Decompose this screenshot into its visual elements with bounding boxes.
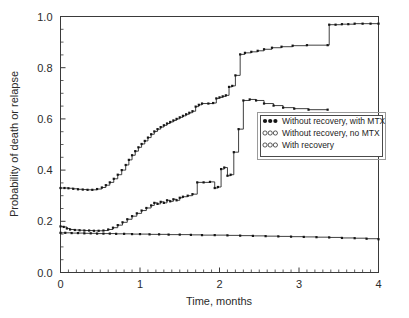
data-point bbox=[327, 44, 329, 46]
data-point bbox=[150, 204, 152, 206]
data-point bbox=[59, 225, 61, 227]
data-point bbox=[136, 212, 138, 214]
data-point bbox=[225, 94, 227, 96]
data-point bbox=[209, 181, 211, 183]
data-point bbox=[215, 97, 217, 99]
data-point bbox=[115, 233, 117, 235]
legend-marker bbox=[268, 131, 272, 135]
data-point bbox=[71, 232, 73, 234]
data-point bbox=[265, 235, 267, 237]
data-point bbox=[195, 106, 197, 108]
data-point bbox=[290, 236, 292, 238]
data-point bbox=[212, 102, 214, 104]
legend-marker bbox=[268, 119, 272, 123]
data-point bbox=[131, 154, 133, 156]
series-line-1 bbox=[61, 24, 379, 190]
data-point bbox=[293, 108, 295, 110]
data-point bbox=[196, 181, 198, 183]
data-point bbox=[82, 188, 84, 190]
data-point bbox=[166, 199, 168, 201]
x-tick-label: 2 bbox=[216, 278, 222, 290]
data-point bbox=[169, 121, 171, 123]
data-point bbox=[263, 48, 265, 50]
data-point bbox=[306, 44, 308, 46]
data-point bbox=[59, 232, 61, 234]
data-point bbox=[191, 193, 193, 195]
data-point bbox=[201, 102, 203, 104]
data-point bbox=[175, 199, 177, 201]
data-point bbox=[126, 218, 128, 220]
data-point bbox=[78, 229, 80, 231]
data-point bbox=[77, 188, 79, 190]
data-point bbox=[315, 236, 317, 238]
data-point bbox=[153, 202, 155, 204]
data-point bbox=[347, 23, 349, 25]
series-line-3 bbox=[61, 233, 379, 239]
y-tick-label: 0.8 bbox=[37, 62, 52, 74]
data-point bbox=[328, 24, 330, 26]
legend-marker bbox=[263, 143, 267, 147]
data-point bbox=[86, 189, 88, 191]
data-point bbox=[354, 23, 356, 25]
data-point bbox=[121, 169, 123, 171]
data-point bbox=[128, 159, 130, 161]
figure-container: 01234 0.00.20.40.60.81.0 Time, months Pr… bbox=[0, 0, 409, 318]
legend-marker bbox=[273, 143, 277, 147]
data-point bbox=[139, 233, 141, 235]
data-point bbox=[163, 202, 165, 204]
data-point bbox=[252, 235, 254, 237]
data-point bbox=[134, 150, 136, 152]
data-point bbox=[96, 232, 98, 234]
data-point bbox=[121, 221, 123, 223]
data-point bbox=[147, 136, 149, 138]
legend-marker bbox=[263, 131, 267, 135]
legend-label: Without recovery, with MTX bbox=[282, 116, 386, 126]
data-point bbox=[145, 207, 147, 209]
data-point bbox=[175, 118, 177, 120]
y-axis-title: Probability of death or relapse bbox=[8, 71, 20, 217]
data-point bbox=[233, 151, 235, 153]
survival-curve-chart: 01234 0.00.20.40.60.81.0 Time, months Pr… bbox=[0, 0, 409, 318]
data-point bbox=[93, 230, 95, 232]
legend-label: With recovery bbox=[282, 140, 335, 150]
legend-marker bbox=[273, 119, 277, 123]
data-point bbox=[365, 238, 367, 240]
data-point bbox=[218, 96, 220, 98]
legend-marker bbox=[263, 119, 267, 123]
y-tick-label: 0.6 bbox=[37, 113, 52, 125]
data-point bbox=[172, 198, 174, 200]
data-point bbox=[244, 52, 246, 54]
data-point bbox=[109, 181, 111, 183]
data-point bbox=[148, 233, 150, 235]
data-point bbox=[74, 229, 76, 231]
data-point bbox=[272, 104, 274, 106]
legend-label: Without recovery, no MTX bbox=[282, 128, 380, 138]
data-point bbox=[105, 184, 107, 186]
x-axis-ticks bbox=[61, 268, 379, 273]
data-point bbox=[131, 233, 133, 235]
series-1 bbox=[59, 23, 379, 191]
data-point bbox=[83, 229, 85, 231]
data-point bbox=[257, 50, 259, 52]
data-point bbox=[271, 47, 273, 49]
data-point bbox=[123, 233, 125, 235]
y-tick-label: 0.4 bbox=[37, 164, 52, 176]
chart-legend: Without recovery, with MTXWithout recove… bbox=[258, 113, 386, 160]
data-point bbox=[231, 85, 233, 87]
data-point bbox=[239, 235, 241, 237]
data-point bbox=[117, 174, 119, 176]
data-point bbox=[144, 140, 146, 142]
data-point bbox=[341, 237, 343, 239]
data-point bbox=[341, 23, 343, 25]
data-point bbox=[91, 189, 93, 191]
legend-marker bbox=[268, 143, 272, 147]
data-point bbox=[242, 99, 244, 101]
data-point bbox=[207, 102, 209, 104]
data-point bbox=[214, 234, 216, 236]
data-point bbox=[292, 45, 294, 47]
data-point bbox=[112, 227, 114, 229]
data-point bbox=[69, 228, 71, 230]
data-point bbox=[369, 23, 371, 25]
data-point bbox=[179, 197, 181, 199]
data-point bbox=[88, 229, 90, 231]
